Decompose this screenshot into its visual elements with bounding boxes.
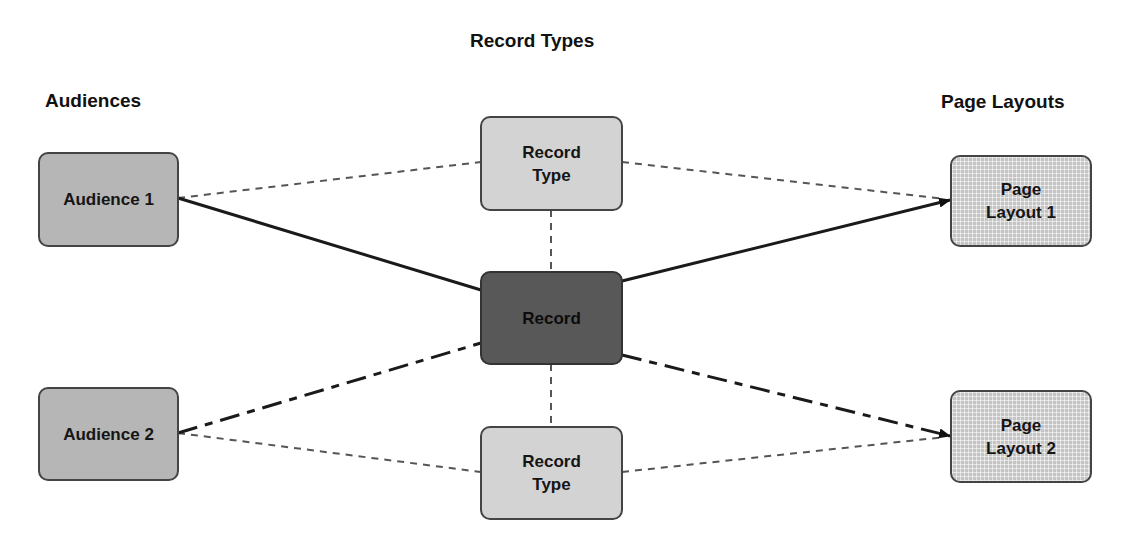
audience-1-label: Audience 1 xyxy=(63,188,154,211)
record-type-bottom-line2: Type xyxy=(522,473,581,496)
edge-audience2-recordtype-bottom xyxy=(178,433,481,472)
edge-record-pagelayout1 xyxy=(622,200,950,281)
page-layout-1-node: Page Layout 1 xyxy=(950,155,1092,247)
record-type-top-line2: Type xyxy=(522,164,581,187)
audiences-heading: Audiences xyxy=(45,90,141,112)
record-type-bottom-line1: Record xyxy=(522,450,581,473)
edge-recordtype-top-pagelayout1 xyxy=(622,162,945,199)
edge-recordtype-bottom-pagelayout2 xyxy=(622,437,945,472)
record-type-top-node: Record Type xyxy=(480,116,623,211)
edge-audience1-record xyxy=(178,198,481,290)
edge-audience1-recordtype-top xyxy=(178,162,481,198)
record-types-heading: Record Types xyxy=(470,30,594,52)
record-node: Record xyxy=(480,271,623,365)
audience-2-label: Audience 2 xyxy=(63,423,154,446)
edge-audience2-record xyxy=(178,343,481,433)
page-layout-1-line2: Layout 1 xyxy=(986,201,1056,224)
page-layouts-heading: Page Layouts xyxy=(941,91,1065,113)
page-layout-2-line2: Layout 2 xyxy=(986,437,1056,460)
page-layout-1-line1: Page xyxy=(986,178,1056,201)
record-type-top-line1: Record xyxy=(522,141,581,164)
page-layout-2-node: Page Layout 2 xyxy=(950,390,1092,483)
audience-2-node: Audience 2 xyxy=(38,387,179,481)
record-type-bottom-node: Record Type xyxy=(480,426,623,520)
record-label: Record xyxy=(522,307,581,330)
audience-1-node: Audience 1 xyxy=(38,152,179,247)
edge-record-pagelayout2 xyxy=(622,355,950,436)
page-layout-2-line1: Page xyxy=(986,414,1056,437)
